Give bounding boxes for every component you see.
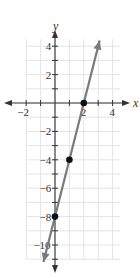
plotted-point (81, 100, 88, 107)
coordinate-plane: xy−22442−2−4−6−8−10 (0, 0, 140, 278)
plotted-point (52, 213, 59, 220)
x-axis-label: x (132, 96, 139, 110)
x-tick-label: 4 (110, 106, 116, 118)
x-tick-label: −2 (17, 106, 29, 118)
y-tick-label: −2 (40, 125, 52, 137)
y-tick-label: 2 (46, 69, 52, 81)
y-tick-label: 4 (46, 40, 52, 52)
y-tick-label: −4 (40, 154, 52, 166)
x-axis-right-arrow-icon (122, 100, 130, 106)
graph-line (43, 41, 99, 263)
plotted-point (66, 157, 73, 164)
y-axis-label: y (52, 19, 59, 33)
y-tick-label: −6 (40, 182, 52, 194)
x-axis-left-arrow-icon (4, 100, 12, 106)
y-tick-label: −8 (40, 211, 52, 223)
y-axis-down-arrow-icon (52, 265, 58, 273)
